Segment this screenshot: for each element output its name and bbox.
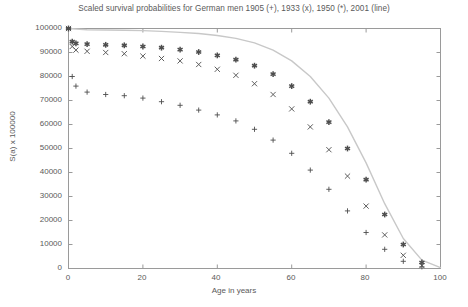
survival-probability-chart: Scaled survival probabilities for German…: [0, 0, 468, 307]
series-1905-markers: [66, 26, 425, 270]
series-1933-markers: [66, 26, 425, 268]
plot-area: [0, 0, 468, 307]
series-1950-markers: [66, 26, 424, 266]
